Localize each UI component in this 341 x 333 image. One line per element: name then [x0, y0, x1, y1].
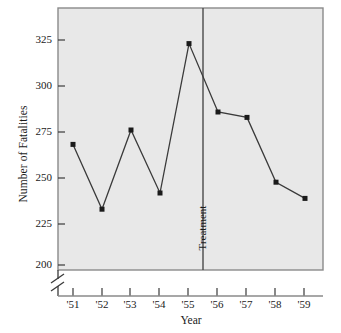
- chart-figure: 325 300 275 250 225 200 '51 '52 '53 '54 …: [0, 0, 341, 333]
- x-axis-title: Year: [58, 314, 324, 326]
- x-tick-label-53: '53: [115, 298, 145, 310]
- data-point-59: [303, 196, 308, 201]
- data-point-58: [274, 180, 279, 185]
- y-axis-break-icon: [51, 270, 64, 296]
- x-tick-label-55: '55: [173, 298, 203, 310]
- data-point-55: [187, 41, 192, 46]
- x-tick-label-52: '52: [87, 298, 117, 310]
- x-tick-label-51: '51: [58, 298, 88, 310]
- y-tick-label-200: 200: [18, 258, 52, 270]
- y-axis-title: Number of Fatalities: [17, 79, 29, 229]
- x-tick-label-56: '56: [202, 298, 232, 310]
- data-point-52: [100, 207, 105, 212]
- data-point-56: [216, 110, 221, 115]
- x-tick-label-57: '57: [231, 298, 261, 310]
- treatment-annotation-label: Treatment: [196, 185, 208, 271]
- x-tick-label-58: '58: [260, 298, 290, 310]
- fatalities-line-chart: [0, 0, 341, 333]
- x-tick-label-59: '59: [289, 298, 319, 310]
- y-tick-label-325: 325: [18, 33, 52, 45]
- data-point-51: [71, 142, 76, 147]
- data-point-53: [129, 128, 134, 133]
- data-point-57: [245, 115, 250, 120]
- x-tick-label-54: '54: [144, 298, 174, 310]
- data-point-54: [158, 191, 163, 196]
- x-axis-ticks: [73, 288, 304, 296]
